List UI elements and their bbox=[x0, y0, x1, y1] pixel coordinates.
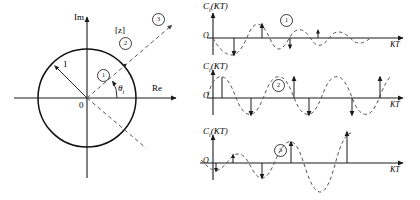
plot1-stem-arrow bbox=[232, 51, 237, 57]
plot1-x-label: KT bbox=[390, 41, 400, 49]
plot1-marker: 1 bbox=[280, 14, 293, 27]
zplane-diagram bbox=[14, 17, 176, 178]
response-plot-3 bbox=[200, 131, 403, 193]
plot3-stem-arrow bbox=[231, 154, 235, 159]
response-plot-2 bbox=[207, 70, 403, 117]
plot3-origin-label: O bbox=[203, 157, 209, 165]
plot3-stem-arrow bbox=[260, 174, 265, 180]
theta-angle-label: θi bbox=[118, 84, 124, 95]
pole-point-2 bbox=[124, 64, 127, 67]
zplane-marker-1: 1 bbox=[97, 69, 110, 82]
plot1-origin-label: O bbox=[203, 32, 209, 40]
zplane-marker-3: 3 bbox=[152, 13, 165, 26]
plot3-marker: 3 bbox=[274, 144, 287, 157]
z-plane-label: [z] bbox=[115, 26, 125, 35]
imaginary-axis-label: Im bbox=[74, 13, 84, 22]
plot2-x-label: KT bbox=[390, 101, 400, 109]
response-plot-1 bbox=[207, 13, 403, 57]
zplane-marker-2: 2 bbox=[119, 37, 132, 50]
radius-arrow bbox=[55, 66, 88, 99]
origin-label: 0 bbox=[79, 101, 84, 110]
plot3-stem-arrow bbox=[345, 131, 350, 137]
plot1-curve bbox=[213, 24, 372, 55]
plot1-stem-arrow bbox=[316, 29, 320, 34]
plot2-curve bbox=[208, 76, 391, 114]
plot3-x-label: KT bbox=[390, 166, 400, 174]
plot2-stem-arrow bbox=[378, 76, 383, 82]
plot3-y-label: Ci(KT) bbox=[203, 127, 228, 138]
pole-ray-lower bbox=[87, 98, 146, 148]
plot2-y-label: Ci(KT) bbox=[203, 62, 228, 73]
angle-arc bbox=[113, 81, 118, 98]
plot2-stem-arrow bbox=[292, 76, 297, 82]
figure-canvas bbox=[0, 0, 420, 200]
plot1-stem-arrow bbox=[288, 45, 292, 50]
real-axis-label: Re bbox=[152, 84, 162, 93]
plot2-stem-arrow bbox=[350, 111, 355, 117]
plot2-marker: 2 bbox=[272, 79, 285, 92]
plot1-y-label: Ci(KT) bbox=[203, 2, 228, 13]
radius-label: 1 bbox=[63, 60, 68, 69]
plot2-origin-label: O bbox=[203, 92, 209, 100]
